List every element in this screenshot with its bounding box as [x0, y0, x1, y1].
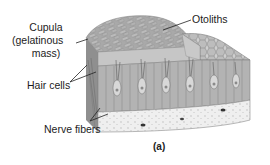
membrane-surface [182, 33, 250, 60]
label-cupula-line2: (gelatinous [12, 35, 63, 46]
label-cupula: Cupula [22, 22, 70, 33]
label-cupula-line1: Cupula [22, 22, 70, 33]
label-hair-cells: Hair cells [27, 80, 70, 91]
label-nerve-fibers: Nerve fibers [44, 124, 101, 135]
label-otoliths: Otoliths [192, 14, 228, 25]
figure-caption: (a) [153, 141, 165, 152]
otolith-organ-diagram: Cupula (gelatinous mass) Otoliths Hair c… [0, 0, 270, 165]
hair-cells-leader-1 [70, 65, 87, 82]
label-cupula-line3: mass) [22, 48, 70, 59]
